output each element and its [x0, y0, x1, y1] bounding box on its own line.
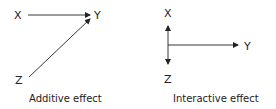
node-x: X: [14, 9, 22, 22]
interactive-effect-diagram: X Y Z Interactive effect: [164, 7, 259, 104]
caption-additive: Additive effect: [29, 93, 102, 104]
arrow-z-to-y: [29, 19, 90, 77]
additive-effect-diagram: X Y Z Additive effect: [14, 9, 102, 104]
caption-interactive: Interactive effect: [173, 93, 259, 104]
node-z: Z: [15, 74, 23, 87]
node-z: Z: [164, 73, 172, 86]
node-y: Y: [243, 40, 251, 53]
effects-diagram: X Y Z Additive effect X Y Z Interactive …: [0, 0, 276, 109]
node-x: X: [164, 7, 172, 20]
node-y: Y: [93, 9, 101, 22]
